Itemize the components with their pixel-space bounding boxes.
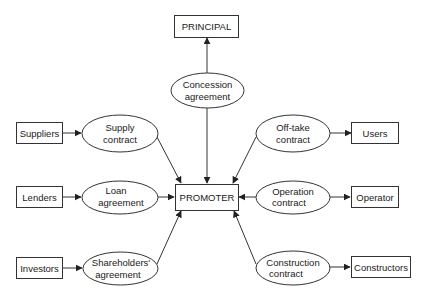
contract-offtake: Off-take contract	[256, 115, 330, 152]
label-operation-line1: Operation	[272, 186, 314, 197]
contract-supply: Supply contract	[82, 115, 158, 152]
label-shareholders-line2: agreement	[95, 269, 141, 280]
label-constructors: Constructors	[354, 262, 408, 273]
label-lenders: Lenders	[22, 192, 57, 203]
contract-construction: Construction contract	[256, 251, 330, 285]
label-suppliers: Suppliers	[20, 128, 60, 139]
node-operator: Operator	[352, 187, 399, 208]
label-shareholders-line1: Shareholders'	[92, 257, 151, 268]
label-operator: Operator	[356, 192, 394, 203]
label-principal: PRINCIPAL	[182, 21, 231, 32]
node-promoter: PROMOTER	[176, 185, 239, 211]
label-promoter: PROMOTER	[180, 192, 235, 203]
contract-concession: Concession agreement	[171, 73, 244, 108]
edges	[62, 38, 351, 268]
edge-construction-promoter	[234, 211, 256, 264]
node-lenders: Lenders	[17, 187, 63, 208]
label-investors: Investors	[20, 263, 59, 274]
label-offtake-line2: contract	[276, 134, 310, 145]
label-offtake-line1: Off-take	[276, 122, 310, 133]
node-investors: Investors	[17, 258, 63, 279]
node-principal: PRINCIPAL	[175, 16, 239, 38]
label-supply-line1: Supply	[105, 122, 134, 133]
label-construction-line2: contract	[269, 268, 303, 279]
label-loan-line1: Loan	[105, 185, 126, 196]
label-concession-line1: Concession	[183, 79, 233, 90]
contract-loan: Loan agreement	[82, 181, 158, 214]
node-constructors: Constructors	[352, 257, 411, 278]
label-concession-line2: agreement	[185, 91, 231, 102]
label-supply-line2: contract	[103, 134, 137, 145]
edge-offtake-promoter	[233, 137, 256, 183]
edge-shareholders-promoter	[157, 211, 181, 264]
contract-structure-diagram: PRINCIPAL Suppliers Lenders Investors Us…	[0, 0, 422, 299]
node-users: Users	[352, 123, 399, 144]
contract-operation: Operation contract	[256, 181, 330, 214]
label-operation-line2: contract	[272, 197, 306, 208]
edge-supply-promoter	[157, 137, 181, 183]
label-loan-line2: agreement	[98, 197, 144, 208]
contract-shareholders: Shareholders' agreement	[83, 252, 158, 285]
label-users: Users	[363, 128, 388, 139]
label-construction-line1: Construction	[266, 257, 319, 268]
node-suppliers: Suppliers	[17, 123, 63, 144]
